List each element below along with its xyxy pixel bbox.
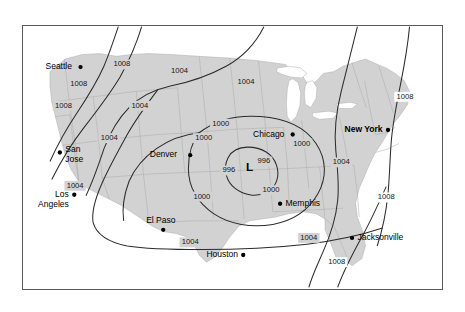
low-pressure-center: L [246,160,253,173]
isobar-value: 1004 [237,77,255,86]
city-label: El Paso [146,215,176,225]
isobar-value: 1000 [195,133,212,142]
isobar-label: 996 [256,157,273,167]
city-label: Memphis [285,198,320,208]
city-label: Jose [65,154,83,164]
isobar-label: 1008 [68,79,89,89]
isobar-label: 1008 [394,92,415,102]
isobar-value: 1008 [397,92,414,101]
isobar-value: 1008 [70,79,87,88]
isobar-label: 1000 [210,119,231,129]
city-label: Angeles [38,199,69,209]
isobar-value: 1008 [378,192,395,201]
isobar-value: 1008 [113,59,130,68]
isobar-label: 1004 [99,133,120,143]
city-dot-icon [386,128,390,132]
isobar-label: 1004 [331,157,352,167]
isobar-value: 996 [258,157,271,166]
city-marker[interactable]: Jacksonville [350,232,404,242]
city-label: New York [345,124,383,134]
map-frame: 1008100810081004100410041004100410001000… [22,25,443,290]
isobar-value: 1008 [55,101,72,110]
city-marker[interactable]: LosAngeles [38,189,76,209]
isobar-label: 1000 [193,133,214,143]
isobar-label: 1004 [169,66,190,76]
city-label: Chicago [253,129,285,139]
isobar-label: 1000 [291,139,312,149]
isobar-value: 1004 [67,181,85,190]
city-dot-icon [188,153,192,157]
city-dot-icon [58,150,62,154]
isobar-value: 1000 [263,185,280,194]
isobar-value: 1004 [171,66,189,75]
city-label: Jacksonville [357,232,403,242]
map-figure: 1008100810081004100410041004100410001000… [0,0,465,312]
isobar-label: 1000 [191,192,212,202]
isobar-value: 1004 [300,233,318,242]
city-label: Los [55,189,69,199]
isobar-value: 1004 [333,157,351,166]
isobar-label: 1004 [235,77,256,87]
isobar-value: 996 [222,165,235,174]
city-dot-icon [241,253,245,257]
city-dot-icon [78,65,82,69]
weather-map-canvas: 1008100810081004100410041004100410001000… [23,26,441,288]
isobar-value: 1004 [182,237,200,246]
isobar-value: 1004 [131,101,149,110]
isobar-label: 1000 [260,185,281,195]
isobar-value: 1000 [293,139,310,148]
isobar-label: 1008 [111,59,132,69]
city-dot-icon [161,228,165,232]
city-dot-icon [72,193,76,197]
isobar-value: 1000 [193,192,210,201]
isobar-value: 1004 [101,133,119,142]
city-label: San [65,144,80,154]
city-marker[interactable]: Houston [206,249,245,259]
landmass-layer [50,54,410,266]
city-label: Seattle [45,61,72,71]
isobar-value: 1000 [212,119,229,128]
isobar-label: 996 [220,165,237,175]
low-pressure-symbol: L [246,160,253,173]
city-label: Houston [206,249,238,259]
city-dot-icon [291,132,295,136]
isobar-value: 1008 [328,257,345,266]
city-dot-icon [350,236,354,240]
isobar-label: 1004 [129,101,150,111]
isobar-label: 1008 [326,257,347,267]
isobar-label: 1004 [180,237,201,247]
isobar-label: 1008 [53,101,74,111]
city-label: Denver [150,149,178,159]
us-landmass [50,54,410,266]
isobar-label: 1004 [298,233,319,243]
isobar-label: 1008 [375,192,396,202]
city-dot-icon [278,202,282,206]
